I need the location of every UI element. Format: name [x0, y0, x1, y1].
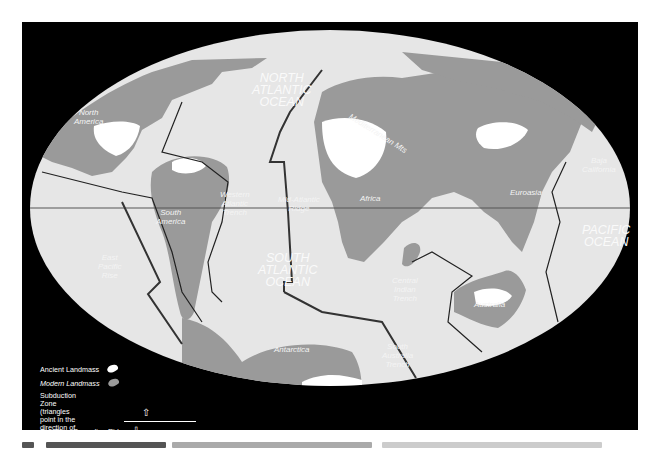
legend-modern-label: Modern Landmass [40, 379, 100, 388]
ancient-landmass-antarctica [302, 375, 362, 402]
label-africa: Africa [360, 194, 380, 203]
figure-caption-cutoff [22, 440, 622, 449]
label-east-pacific-rise: East Pacific Rise [98, 253, 122, 280]
modern-landmass-swatch-icon [107, 377, 120, 388]
ancient-landmass-swatch-icon [106, 363, 119, 374]
legend-ridge-label: Sea Floor Spreading Ridge [40, 427, 127, 430]
label-south-america: South America [156, 208, 185, 226]
label-south-australia-trench: South Australia Trench [382, 342, 413, 369]
label-central-indian-trench: Central Indian Trench [392, 276, 418, 303]
label-north-america: North America [74, 108, 103, 126]
label-baja-california: Baja California [582, 156, 616, 174]
map-frame: North America South America Africa Euroa… [22, 22, 638, 430]
caption-fragment [46, 442, 166, 448]
label-australia: Australia [474, 300, 505, 309]
label-eurasia: Euroasia [510, 188, 542, 197]
label-pacific-ocean: PACIFIC OCEAN [582, 224, 630, 248]
caption-fragment [382, 442, 602, 448]
arrow-up-icon: ⇧ [142, 409, 150, 417]
legend-ancient-landmass: Ancient Landmass [40, 365, 118, 374]
label-south-atlantic-ocean: SOUTH ATLANTIC OCEAN [258, 252, 318, 288]
legend-subduction-zone: Subduction Zone (triangles point in the … [40, 392, 77, 430]
caption-fragment [172, 442, 372, 448]
label-western-atlantic-trench: Western Atlantic Trench [220, 190, 250, 217]
legend-modern-landmass: Modern Landmass [40, 379, 119, 388]
label-mid-atlantic-ridge: Mid-Atlantic Ridge [278, 195, 320, 213]
caption-fragment [22, 442, 34, 448]
label-north-atlantic-ocean: NORTH ATLANTIC OCEAN [252, 72, 312, 108]
arrow-down-icon: ⇩ [132, 425, 140, 430]
legend-spreading-ridge: Sea Floor Spreading Ridge ⇩ [40, 427, 140, 430]
label-antarctica: Antarctica [274, 345, 310, 354]
legend-ancient-label: Ancient Landmass [40, 365, 99, 374]
